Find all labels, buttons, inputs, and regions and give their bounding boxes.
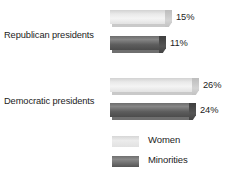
bar-face: [110, 78, 193, 92]
bar-face: [110, 36, 160, 50]
bar-republican-women: [110, 10, 172, 27]
bar-base-shadow: [112, 117, 189, 121]
bar-democratic-women: [110, 78, 199, 95]
bar-chart-figure: Republican presidents 15% 11% Democratic…: [0, 0, 236, 179]
bar-end-cap: [165, 10, 172, 27]
bar-end-cap: [159, 36, 166, 53]
bar-face: [110, 103, 190, 117]
bar-republican-minorities: [110, 36, 166, 53]
bar-democratic-minorities: [110, 103, 196, 120]
legend-swatch-minorities: [112, 156, 139, 167]
legend-swatch-women: [112, 136, 139, 147]
value-label-republican-women: 15%: [176, 12, 194, 22]
bar-base-shadow: [112, 24, 165, 28]
legend-label-women: Women: [148, 134, 180, 145]
legend-label-minorities: Minorities: [148, 154, 188, 165]
value-label-democratic-minorities: 24%: [200, 105, 218, 115]
value-label-democratic-women: 26%: [203, 80, 221, 90]
bar-base-shadow: [112, 92, 192, 96]
value-label-republican-minorities: 11%: [170, 38, 188, 48]
bar-face: [110, 10, 166, 24]
category-label-democratic-presidents: Democratic presidents: [4, 96, 108, 106]
bar-end-cap: [192, 78, 199, 95]
figure-caption: FIGURE 11-1: [4, 177, 58, 179]
category-label-republican-presidents: Republican presidents: [4, 30, 108, 40]
bar-end-cap: [189, 103, 196, 120]
bar-base-shadow: [112, 50, 159, 54]
